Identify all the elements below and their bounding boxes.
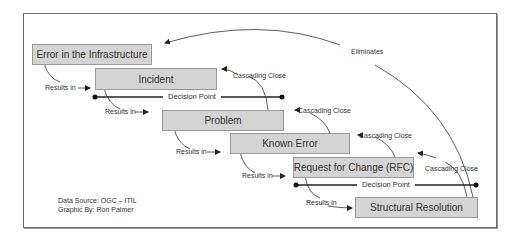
graphic-author-text: Graphic By: Ron Palmer [58, 205, 137, 214]
box-error-in-infrastructure: Error in the Infrastructure [32, 44, 152, 65]
box-label: Problem [204, 115, 241, 126]
cascading-close-label: Cascading Close [425, 165, 478, 172]
box-problem: Problem [162, 110, 284, 131]
cascading-close-label: Cascading Close [298, 107, 351, 114]
decision-point-label: Decision Point [163, 93, 221, 101]
data-source-text: Data Source: OGC – ITIL [58, 196, 137, 205]
eliminates-label: Eliminates [350, 48, 384, 55]
results-in-label: Results in [105, 108, 136, 115]
box-label: Known Error [262, 138, 318, 149]
box-label: Incident [138, 74, 173, 85]
box-label: Request for Change (RFC) [294, 162, 414, 173]
box-incident: Incident [95, 68, 217, 90]
cascading-close-label: Cascading Close [233, 72, 286, 79]
credits: Data Source: OGC – ITIL Graphic By: Ron … [58, 196, 137, 214]
results-in-label: Results in [176, 148, 207, 155]
box-label: Error in the Infrastructure [36, 49, 147, 60]
box-structural-resolution: Structural Resolution [355, 197, 478, 218]
box-label: Structural Resolution [370, 202, 463, 213]
results-in-label: Results in [306, 199, 337, 206]
results-in-label: Results in [242, 172, 273, 179]
box-known-error: Known Error [230, 133, 350, 154]
cascading-close-label: Cascading Close [359, 132, 412, 139]
box-rfc: Request for Change (RFC) [293, 157, 414, 178]
results-in-label: Results in [45, 84, 76, 91]
decision-point-label: Decision Point [357, 181, 415, 189]
